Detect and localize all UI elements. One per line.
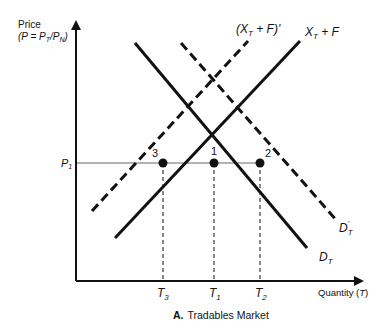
equilibrium-point-2 bbox=[256, 159, 265, 168]
tick-label-t1: T1 bbox=[209, 286, 221, 302]
supply-shifted-label: (XT + F)' bbox=[236, 22, 281, 38]
tick-label-t2: T2 bbox=[255, 286, 267, 302]
y-axis-label-line2: (P = PT/PN) bbox=[18, 31, 68, 43]
y-axis-label-line1: Price bbox=[18, 19, 41, 30]
tradables-market-diagram: 3 1 2 Price (P = PT/PN) P1 (XT + F)' XT … bbox=[0, 0, 385, 329]
demand-curve bbox=[135, 43, 307, 248]
supply-label: XT + F bbox=[304, 25, 340, 41]
point-label-1: 1 bbox=[211, 145, 217, 157]
point-label-2: 2 bbox=[265, 147, 271, 159]
point-label-3: 3 bbox=[152, 147, 158, 159]
equilibrium-point-3 bbox=[159, 159, 168, 168]
x-axis-label: Quantity (T) bbox=[318, 287, 368, 298]
demand-shifted-curve bbox=[181, 43, 338, 222]
tick-label-t3: T3 bbox=[157, 286, 169, 302]
demand-label: DT bbox=[319, 250, 334, 266]
diagram-title: A.Tradables Market bbox=[173, 309, 269, 321]
supply-shifted-curve bbox=[92, 41, 248, 211]
equilibrium-point-1 bbox=[210, 159, 219, 168]
price-level-label: P1 bbox=[61, 157, 72, 170]
demand-shifted-label: DT' bbox=[339, 219, 354, 237]
